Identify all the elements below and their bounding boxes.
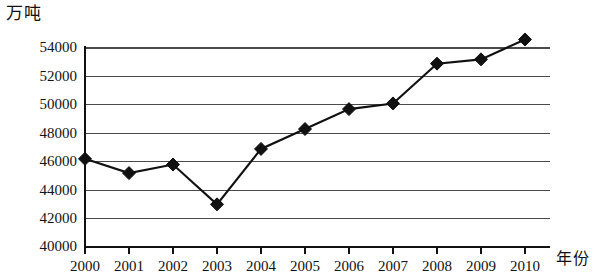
data-point-marker <box>475 53 488 66</box>
x-axis-tick-label: 2000 <box>70 258 100 274</box>
y-axis-tick-label: 48000 <box>40 125 78 141</box>
y-axis-tick-label: 40000 <box>40 238 78 254</box>
data-point-marker <box>79 152 92 165</box>
y-axis-tick-label: 44000 <box>40 182 78 198</box>
y-axis-tick-label: 54000 <box>40 39 78 55</box>
gridlines-group <box>85 48 550 219</box>
x-axis-tick-label: 2004 <box>246 258 277 274</box>
x-axis-tick-label: 2005 <box>290 258 320 274</box>
x-axis-tick-labels: 2000200120022003200420052006200720082009… <box>70 258 540 274</box>
y-axis-tick-label: 52000 <box>40 68 78 84</box>
x-axis-tick-label: 2007 <box>378 258 409 274</box>
y-axis-tick-labels: 4000042000440004600048000500005200054000 <box>40 39 78 254</box>
x-axis-tick-label: 2009 <box>466 258 496 274</box>
data-point-markers <box>79 33 532 211</box>
x-axis-tick-label: 2006 <box>334 258 365 274</box>
x-axis-tick-label: 2008 <box>422 258 452 274</box>
line-chart: 万吨 年份 4000042000440004600048000500005200… <box>0 0 598 276</box>
x-axis-tick-label: 2010 <box>510 258 540 274</box>
data-point-marker <box>123 167 136 180</box>
y-axis-tick-label: 50000 <box>40 96 78 112</box>
y-axis-tick-label: 42000 <box>40 210 78 226</box>
x-axis-tick-label: 2003 <box>202 258 232 274</box>
x-axis-tick-label: 2002 <box>158 258 188 274</box>
y-axis-tick-label: 46000 <box>40 153 78 169</box>
x-axis-tick-label: 2001 <box>114 258 144 274</box>
plot-area: 4000042000440004600048000500005200054000… <box>0 0 598 276</box>
data-point-marker <box>519 33 532 46</box>
